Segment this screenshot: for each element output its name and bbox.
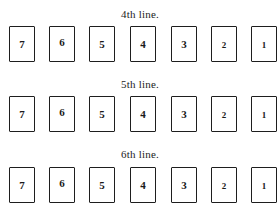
card-2: 2 — [211, 96, 237, 132]
card-number: 5 — [99, 180, 105, 191]
card-2: 2 — [211, 167, 237, 203]
card-number: 2 — [222, 110, 227, 121]
card-number: 3 — [181, 109, 187, 120]
row-label: 6th line. — [0, 148, 280, 160]
card-6: 6 — [49, 96, 75, 132]
row-label: 5th line. — [0, 78, 280, 90]
card-number: 1 — [262, 40, 267, 51]
card-number: 5 — [99, 109, 105, 120]
card-2: 2 — [211, 26, 237, 62]
card-3: 3 — [171, 167, 197, 203]
card-1: 1 — [251, 96, 277, 132]
card-4: 4 — [130, 96, 156, 132]
row-label: 4th line. — [0, 8, 280, 20]
card-6: 6 — [49, 26, 75, 62]
card-row: 7 6 5 4 3 2 1 — [0, 26, 280, 64]
card-number: 4 — [140, 39, 146, 50]
card-number: 3 — [181, 180, 187, 191]
card-number: 7 — [19, 180, 25, 191]
card-number: 3 — [181, 39, 187, 50]
card-3: 3 — [171, 96, 197, 132]
card-row: 7 6 5 4 3 2 1 — [0, 96, 280, 134]
card-7: 7 — [9, 96, 35, 132]
card-number: 2 — [222, 40, 227, 51]
card-number: 7 — [19, 39, 25, 50]
card-row: 7 6 5 4 3 2 1 — [0, 167, 280, 205]
card-1: 1 — [251, 26, 277, 62]
card-number: 7 — [19, 109, 25, 120]
card-5: 5 — [89, 167, 115, 203]
card-5: 5 — [89, 96, 115, 132]
card-number: 4 — [140, 109, 146, 120]
card-4: 4 — [130, 26, 156, 62]
card-6: 6 — [49, 167, 75, 203]
card-number: 5 — [99, 39, 105, 50]
card-number: 6 — [59, 107, 65, 118]
card-number: 6 — [59, 178, 65, 189]
card-number: 1 — [262, 181, 267, 192]
card-number: 1 — [262, 110, 267, 121]
card-number: 6 — [59, 37, 65, 48]
card-3: 3 — [171, 26, 197, 62]
card-1: 1 — [251, 167, 277, 203]
card-7: 7 — [9, 26, 35, 62]
card-7: 7 — [9, 167, 35, 203]
card-number: 4 — [140, 180, 146, 191]
card-number: 2 — [222, 181, 227, 192]
card-4: 4 — [130, 167, 156, 203]
card-5: 5 — [89, 26, 115, 62]
